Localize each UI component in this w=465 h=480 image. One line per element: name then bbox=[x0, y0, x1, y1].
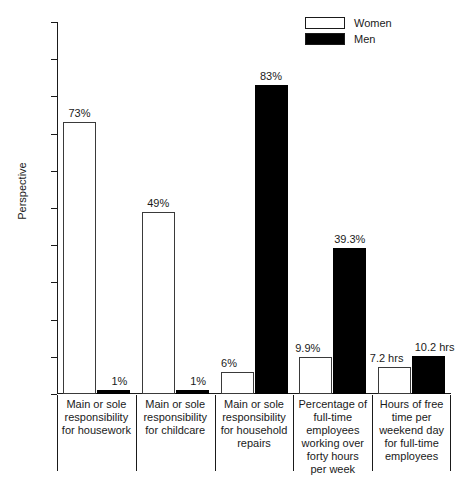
category-label-line: repairs bbox=[217, 437, 292, 450]
y-tick-mark bbox=[51, 59, 57, 60]
bar-value-label: 39.3% bbox=[321, 234, 379, 245]
y-tick-mark bbox=[51, 245, 57, 246]
category-label-line: Main or sole bbox=[138, 398, 213, 411]
category-separator bbox=[136, 395, 137, 471]
y-tick-mark bbox=[51, 320, 57, 321]
y-tick-mark bbox=[51, 357, 57, 358]
bar-value-label: 49% bbox=[129, 198, 187, 209]
bar-women bbox=[63, 122, 96, 394]
category-label-line: employees bbox=[374, 450, 449, 463]
y-tick-mark bbox=[51, 22, 57, 23]
bar-value-label: 10.2 hrs bbox=[406, 342, 464, 353]
y-axis-title: Perspective bbox=[16, 141, 28, 241]
category-label-line: responsibility bbox=[217, 411, 292, 424]
category-label-line: for full-time bbox=[374, 437, 449, 450]
category-separator bbox=[450, 395, 451, 471]
category-label-line: weekend day bbox=[374, 424, 449, 437]
bar-value-label: 9.9% bbox=[279, 343, 337, 354]
category-label: Main or soleresponsibilityfor childcare bbox=[138, 398, 213, 437]
category-label: Main or soleresponsibilityfor householdr… bbox=[217, 398, 292, 450]
bar-value-label: 1% bbox=[90, 376, 148, 387]
category-separator bbox=[372, 395, 373, 471]
x-axis-category-labels: Main or soleresponsibilityfor houseworkM… bbox=[57, 395, 451, 475]
bar-value-label: 73% bbox=[50, 108, 108, 119]
bar-value-label: 83% bbox=[242, 71, 300, 82]
category-label-line: time per bbox=[374, 411, 449, 424]
y-tick-mark bbox=[51, 171, 57, 172]
category-label-line: responsibility bbox=[138, 411, 213, 424]
bar-women bbox=[221, 372, 254, 394]
bar-men bbox=[412, 356, 445, 394]
category-label-line: full-time bbox=[295, 411, 370, 424]
category-label: Percentage offull-timeemployeesworking o… bbox=[295, 398, 370, 476]
category-label-line: Percentage of bbox=[295, 398, 370, 411]
category-separator bbox=[57, 395, 58, 471]
y-tick-mark bbox=[51, 96, 57, 97]
bar-value-label: 7.2 hrs bbox=[358, 353, 416, 364]
y-tick-mark bbox=[51, 134, 57, 135]
category-label-line: working over bbox=[295, 437, 370, 450]
category-label: Main or soleresponsibilityfor housework bbox=[59, 398, 134, 437]
bar-chart: Women Men Perspective 010203040506070809… bbox=[0, 0, 465, 480]
category-label-line: employees bbox=[295, 424, 370, 437]
category-label-line: per week bbox=[295, 463, 370, 476]
category-separator bbox=[293, 395, 294, 471]
category-label-line: Main or sole bbox=[59, 398, 134, 411]
bar-men bbox=[97, 390, 130, 394]
category-label-line: for childcare bbox=[138, 424, 213, 437]
y-axis-line bbox=[57, 22, 58, 394]
category-label-line: Main or sole bbox=[217, 398, 292, 411]
category-label-line: for household bbox=[217, 424, 292, 437]
y-tick-mark bbox=[51, 282, 57, 283]
category-label-line: forty hours bbox=[295, 450, 370, 463]
category-label-line: Hours of free bbox=[374, 398, 449, 411]
bar-women bbox=[299, 357, 332, 394]
bar-value-label: 1% bbox=[169, 376, 227, 387]
bar-men bbox=[176, 390, 209, 394]
category-label-line: responsibility bbox=[59, 411, 134, 424]
bar-women bbox=[378, 367, 411, 394]
category-label-line: for housework bbox=[59, 424, 134, 437]
bar-women bbox=[142, 212, 175, 394]
bar-value-label: 6% bbox=[200, 358, 258, 369]
category-separator bbox=[215, 395, 216, 471]
category-label: Hours of freetime perweekend dayfor full… bbox=[374, 398, 449, 463]
bar-men bbox=[333, 248, 366, 394]
plot-area: 0102030405060708090100 73%1%49%1%6%83%9.… bbox=[57, 22, 451, 394]
y-tick-mark bbox=[51, 208, 57, 209]
